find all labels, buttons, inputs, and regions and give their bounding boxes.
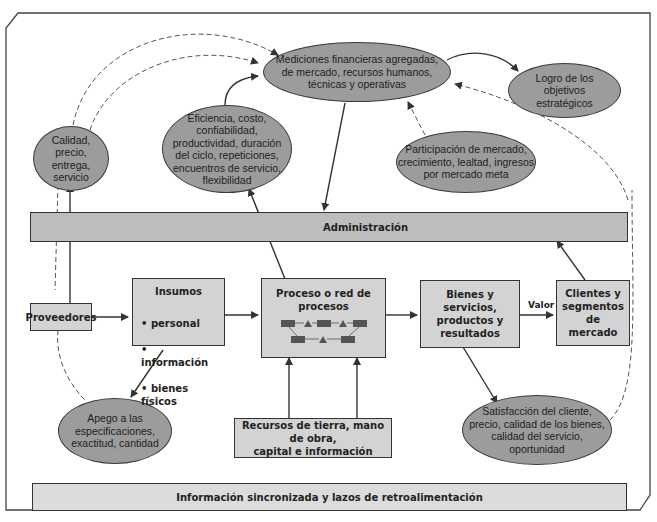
proveedores-box: Proveedores — [30, 303, 92, 331]
insumos-item: información — [141, 343, 216, 369]
insumos-box: Insumos personal información bienes físi… — [132, 278, 225, 346]
insumos-item: bienes físicos — [141, 382, 216, 408]
bienes-box: Bienes y servicios, productos y resultad… — [420, 280, 520, 348]
proceso-label: Proceso o red de procesos — [276, 287, 371, 313]
insumos-list: personal información bienes físicos — [141, 304, 216, 421]
insumos-title: Insumos — [155, 285, 202, 298]
clientes-box: Clientes y segmentos de mercado — [556, 280, 630, 346]
informacion-label: Información sincronizada y lazos de retr… — [176, 492, 483, 503]
logro-ellipse: Logro de los objetivos estratégicos — [508, 63, 621, 118]
valor-label: Valor — [528, 300, 554, 310]
satisfaccion-ellipse: Satisfacción del cliente, precio, calida… — [462, 395, 612, 465]
participacion-ellipse: Participación de mercado, crecimiento, l… — [396, 131, 536, 193]
calidad-ellipse: Calidad, precio, entrega, servicio — [33, 126, 109, 191]
administracion-bar: Administración — [30, 212, 628, 242]
mediciones-ellipse: Mediciones financieras agregadas, de mer… — [263, 42, 451, 102]
proceso-box: Proceso o red de procesos — [261, 278, 386, 358]
administracion-label: Administración — [323, 222, 408, 233]
informacion-bar: Información sincronizada y lazos de retr… — [32, 483, 627, 511]
insumos-item: personal — [141, 317, 216, 330]
process-network-icon — [279, 317, 369, 347]
eficiencia-ellipse: Eficiencia, costo, confiabilidad, produc… — [162, 105, 292, 193]
recursos-box: Recursos de tierra, mano de obra, capita… — [234, 418, 392, 458]
